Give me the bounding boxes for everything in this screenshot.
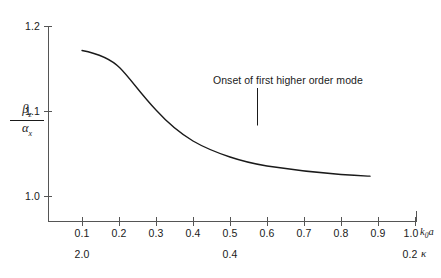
x-tick-label-0-7: 0.7 xyxy=(289,227,319,239)
x-tick-label-0-5: 0.5 xyxy=(215,227,245,239)
data-curve xyxy=(82,51,370,177)
y-axis-denominator: αx xyxy=(10,121,44,138)
x-tick2-label-0-4: 0.4 xyxy=(213,248,247,260)
y-tick-label-1-0: 1.0 xyxy=(14,190,40,202)
y-axis-denominator-subscript: x xyxy=(29,128,33,137)
x-tick-label-0-9: 0.9 xyxy=(363,227,393,239)
x-tick-label-0-1: 0.1 xyxy=(67,227,97,239)
y-axis-title: βz αx xyxy=(10,103,44,137)
x-axis-title-primary: k0a xyxy=(420,226,434,240)
x-tick-label-0-3: 0.3 xyxy=(141,227,171,239)
x-axis-title-tail: a xyxy=(428,226,433,237)
x-tick-label-0-4: 0.4 xyxy=(178,227,208,239)
y-axis-numerator-subscript: z xyxy=(29,110,32,119)
chart-figure: 1.2 1.1 1.0 βz αx 0.1 0.2 0.3 0.4 0.5 0.… xyxy=(0,0,441,278)
x-tick-label-0-2: 0.2 xyxy=(104,227,134,239)
x-tick2-label-2-0: 2.0 xyxy=(65,248,99,260)
x-tick-label-0-8: 0.8 xyxy=(326,227,356,239)
y-axis-numerator: βz xyxy=(10,103,44,121)
x-axis-title-secondary: κ xyxy=(421,247,426,259)
y-tick-label-1-2: 1.2 xyxy=(14,20,40,32)
x-tick-label-0-6: 0.6 xyxy=(252,227,282,239)
annotation-onset-label: Onset of first higher order mode xyxy=(213,74,363,86)
